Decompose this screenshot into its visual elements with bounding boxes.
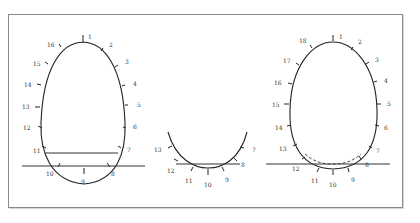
middle-label-13: 13 [154,146,162,153]
middle-label-10: 10 [204,181,212,188]
right-label-8: 8 [365,161,369,168]
left-oval-figure: 1 2 3 4 5 6 7 8 9 10 11 12 13 14 15 16 [22,33,145,185]
right-label-3: 3 [375,56,379,63]
middle-label-12: 12 [167,167,175,174]
left-label-11: 11 [33,147,41,154]
middle-label-11: 11 [185,177,193,184]
middle-arc-figure: 7 8 9 10 11 12 13 [154,132,256,188]
right-label-15: 15 [272,101,280,108]
left-label-6: 6 [133,123,137,130]
left-label-7: 7 [127,146,131,153]
right-label-12: 12 [292,165,300,172]
right-oval [290,42,377,169]
right-label-17: 17 [283,57,291,64]
right-label-5: 5 [387,100,391,107]
middle-label-8: 8 [241,161,245,168]
right-label-13: 13 [279,145,287,152]
left-label-13: 13 [22,103,30,110]
left-label-5: 5 [137,101,141,108]
left-label-3: 3 [125,58,129,65]
left-oval [41,42,125,184]
right-label-11: 11 [311,177,319,184]
left-label-9: 9 [81,178,85,185]
right-label-4: 4 [384,77,388,84]
middle-arc [168,132,247,168]
left-label-10: 10 [46,170,54,177]
left-label-8: 8 [111,170,115,177]
right-label-6: 6 [384,124,388,131]
right-oval-figure: 1 2 3 4 5 6 7 8 9 10 11 12 13 14 15 16 1… [266,33,391,188]
right-label-10: 10 [329,181,337,188]
left-label-15: 15 [33,60,41,67]
right-label-1: 1 [339,33,343,40]
right-label-18: 18 [299,37,307,44]
left-label-2: 2 [109,41,113,48]
diagram-canvas: 1 2 3 4 5 6 7 8 9 10 11 12 13 14 15 16 7… [0,0,420,223]
left-label-12: 12 [23,124,31,131]
left-label-4: 4 [133,80,137,87]
right-label-9: 9 [351,176,355,183]
right-label-14: 14 [275,124,283,131]
left-label-1: 1 [88,33,92,40]
middle-label-7: 7 [252,146,256,153]
left-label-16: 16 [47,41,55,48]
middle-label-9: 9 [225,176,229,183]
left-label-14: 14 [24,81,32,88]
right-label-7: 7 [376,147,380,154]
right-label-16: 16 [274,79,282,86]
right-dashed-arc [305,154,361,164]
right-label-2: 2 [358,38,362,45]
